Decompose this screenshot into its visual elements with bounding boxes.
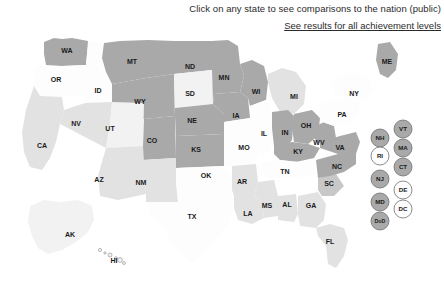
bubble-de[interactable]: DE xyxy=(394,181,412,199)
state-co[interactable] xyxy=(143,116,176,160)
map-instruction-text: Click on any state to see comparisons to… xyxy=(0,2,441,15)
state-az[interactable] xyxy=(98,146,146,200)
state-ca[interactable] xyxy=(22,86,64,170)
state-hi[interactable] xyxy=(98,248,125,264)
state-map-widget: Click on any state to see comparisons to… xyxy=(0,0,444,299)
state-ny[interactable] xyxy=(332,72,372,100)
bubble-nh[interactable]: NH xyxy=(371,129,389,147)
state-ga[interactable] xyxy=(298,192,326,228)
small-state-bubbles[interactable]: NHRINJMDDoDVTMACTDEDC xyxy=(371,120,412,230)
state-mi[interactable] xyxy=(268,68,306,114)
us-choropleth-svg[interactable]: WAORIDMTWYCANVUTCOAZNMNDSDNEKSOKTXMNIAMO… xyxy=(0,24,444,299)
state-ar[interactable] xyxy=(232,164,258,196)
state-ut[interactable] xyxy=(106,102,144,148)
state-or[interactable] xyxy=(34,65,86,97)
bubble-ct[interactable]: CT xyxy=(394,158,412,176)
bubble-dod[interactable]: DoD xyxy=(371,212,389,230)
state-ky[interactable] xyxy=(274,142,320,162)
state-ak[interactable] xyxy=(28,200,94,254)
bubble-ma[interactable]: MA xyxy=(394,139,412,157)
state-nm[interactable] xyxy=(143,158,178,202)
bubble-md[interactable]: MD xyxy=(371,193,389,211)
state-me[interactable] xyxy=(376,42,398,78)
state-al[interactable] xyxy=(278,194,298,222)
state-fl[interactable] xyxy=(316,224,348,268)
state-wa[interactable] xyxy=(44,38,88,66)
state-ks[interactable] xyxy=(176,134,224,168)
state-nd[interactable] xyxy=(174,41,212,74)
state-la[interactable] xyxy=(234,196,264,224)
states-layer[interactable] xyxy=(22,38,398,268)
state-ne[interactable] xyxy=(175,104,224,136)
state-pa[interactable] xyxy=(318,98,360,126)
bubble-dc[interactable]: DC xyxy=(394,200,412,218)
state-tn[interactable] xyxy=(258,160,318,178)
us-map-container[interactable]: WAORIDMTWYCANVUTCOAZNMNDSDNEKSOKTXMNIAMO… xyxy=(0,24,444,299)
bubble-ri[interactable]: RI xyxy=(371,147,389,165)
bubble-vt[interactable]: VT xyxy=(394,120,412,138)
state-nv[interactable] xyxy=(60,102,112,148)
bubble-nj[interactable]: NJ xyxy=(371,170,389,188)
